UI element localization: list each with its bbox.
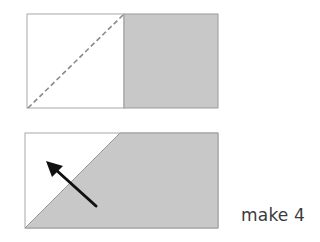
- step2-unit: [25, 133, 218, 228]
- make-count-label: make 4: [241, 205, 305, 225]
- step1-unit: [27, 14, 218, 108]
- gray-square: [124, 14, 218, 108]
